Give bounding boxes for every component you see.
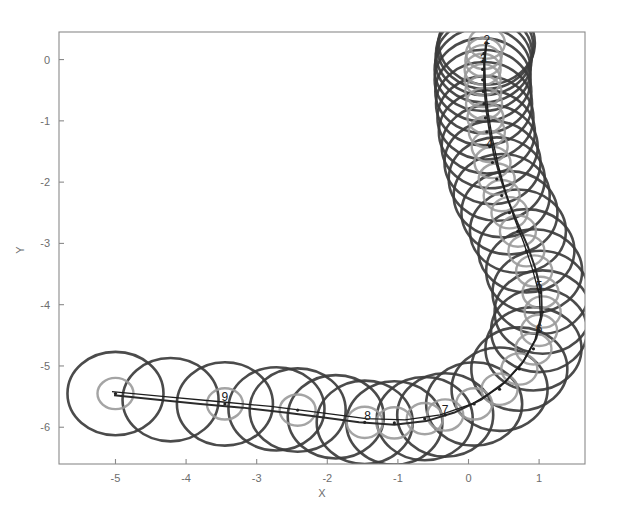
pose-marker: [525, 249, 528, 252]
x-tick-label: 0: [465, 472, 471, 484]
pose-marker: [482, 90, 485, 93]
pose-marker: [393, 421, 396, 424]
pose-marker: [495, 177, 498, 180]
landmark-label: 2: [484, 33, 491, 47]
pose-marker: [516, 230, 519, 233]
y-tick-label: 0: [44, 54, 50, 66]
landmark-label: 6: [536, 322, 543, 336]
landmark-label: 9: [222, 390, 229, 404]
y-tick-label: -2: [40, 176, 50, 188]
y-tick-label: -4: [40, 299, 50, 311]
pose-marker: [481, 78, 484, 81]
x-axis-title: X: [318, 487, 326, 499]
y-tick-label: -6: [40, 421, 50, 433]
x-tick-label: -1: [393, 472, 403, 484]
pose-marker: [296, 408, 299, 411]
x-tick-label: -3: [252, 472, 262, 484]
pose-marker: [485, 130, 488, 133]
y-axis-title: Y: [14, 246, 26, 254]
y-tick-label: -3: [40, 237, 50, 249]
pose-marker: [484, 116, 487, 119]
landmark-label: 4: [486, 137, 493, 151]
pose-marker: [423, 417, 426, 420]
landmark-label: 8: [364, 409, 371, 423]
landmark-label: 3: [480, 52, 487, 66]
pose-marker: [508, 211, 511, 214]
landmark-label: 5: [536, 279, 543, 293]
y-tick-label: -1: [40, 115, 50, 127]
pose-marker: [541, 310, 544, 313]
landmark-label: 7: [442, 403, 449, 417]
scatter-plot-canvas: 98765432 -5-4-3-2-101 0-1-2-3-4-5-6 X Y: [0, 0, 618, 526]
x-tick-label: 1: [536, 472, 542, 484]
x-tick-label: -2: [322, 472, 332, 484]
x-tick-label: -4: [181, 472, 191, 484]
pose-marker: [498, 388, 501, 391]
pose-marker: [481, 68, 484, 71]
pose-marker: [500, 194, 503, 197]
pose-marker: [532, 347, 535, 350]
pose-marker: [482, 102, 485, 105]
plot-figure: 98765432 -5-4-3-2-101 0-1-2-3-4-5-6 X Y: [0, 0, 618, 526]
pose-marker: [114, 392, 117, 395]
pose-marker: [518, 367, 521, 370]
pose-marker: [491, 161, 494, 164]
y-tick-label: -5: [40, 360, 50, 372]
pose-marker: [473, 402, 476, 405]
pose-marker: [533, 269, 536, 272]
x-tick-label: -5: [111, 472, 121, 484]
